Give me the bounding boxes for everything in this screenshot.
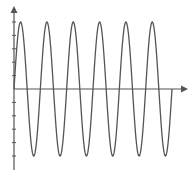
x-axis-arrow-icon [181,86,188,93]
y-axis-arrow-icon [11,6,18,13]
sine-wave-chart [0,0,193,178]
